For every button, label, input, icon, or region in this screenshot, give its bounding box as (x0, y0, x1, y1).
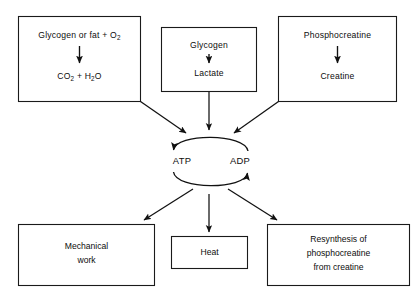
cycle-arc-top-icon (174, 137, 249, 151)
diagram-canvas: Glycogen or fat + O2 CO2 + H2O Glycogen … (0, 0, 417, 301)
glycolytic-product-label: Lactate (194, 68, 224, 78)
connector-cycle-to-mechanical-work (144, 189, 193, 220)
phosphagen-product-label: Creatine (320, 71, 354, 81)
resynthesis-line3: from creatine (313, 262, 363, 272)
connector-cycle-to-resynthesis (228, 189, 277, 220)
source-box-glycolytic: Glycogen Lactate (162, 28, 257, 92)
cycle-label-atp: ATP (173, 155, 191, 166)
cycle-arc-bottom-icon (174, 172, 248, 186)
atp-pathways-diagram: Glycogen or fat + O2 CO2 + H2O Glycogen … (0, 0, 417, 301)
atp-adp-cycle: ATP ADP (173, 137, 250, 185)
mechanical-work-line1: Mechanical (65, 241, 109, 251)
source-box-aerobic: Glycogen or fat + O2 CO2 + H2O (19, 17, 141, 102)
mechanical-work-line2: work (76, 255, 96, 265)
connector-phosphagen-to-cycle (234, 102, 279, 134)
connector-aerobic-to-cycle (141, 102, 187, 134)
source-box-phosphagen: Phosphocreatine Creatine (279, 17, 397, 102)
heat-label: Heat (200, 247, 219, 257)
sink-box-mechanical-work: Mechanical work (19, 225, 155, 286)
aerobic-product-label: CO2 + H2O (57, 71, 102, 82)
sink-box-resynthesis: Resynthesis of phosphocreatine from crea… (268, 225, 410, 286)
cycle-label-adp: ADP (230, 155, 250, 166)
resynthesis-line1: Resynthesis of (310, 234, 367, 244)
resynthesis-line2: phosphocreatine (307, 248, 371, 258)
glycolytic-reactant-label: Glycogen (190, 40, 228, 50)
phosphagen-reactant-label: Phosphocreatine (304, 30, 372, 40)
sink-box-heat: Heat (172, 237, 248, 269)
aerobic-reactant-label: Glycogen or fat + O2 (38, 30, 121, 41)
